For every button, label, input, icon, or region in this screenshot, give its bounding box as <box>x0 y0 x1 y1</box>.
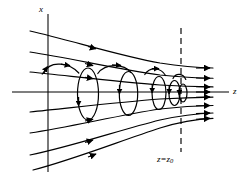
helix-loop-2 <box>119 72 137 116</box>
arrow-field-line-7-mid <box>88 154 96 157</box>
x-axis-label: x <box>39 5 43 14</box>
mirror-plane-label-subscript: 0 <box>170 157 173 164</box>
arrow-field-line-7-exit <box>196 113 210 114</box>
field-line-1 <box>30 31 213 68</box>
field-line-6 <box>30 113 213 155</box>
arrow-helix-back-arc-1 <box>61 64 70 65</box>
field-line-diagram-svg <box>0 0 250 178</box>
z-axis-label: z <box>233 87 237 96</box>
field-line-7 <box>33 118 213 170</box>
helix-loop-1 <box>78 68 99 120</box>
arrow-field-line-8-exit <box>196 118 210 119</box>
axes-group <box>12 14 229 172</box>
field-line-exit-arrows <box>196 68 210 119</box>
mirror-plane-label: z=z0 <box>157 155 173 165</box>
arrow-helix-back-arc-2 <box>112 65 121 66</box>
mirror-plane-label-z: z <box>157 154 161 164</box>
helix-loop-3 <box>152 77 166 110</box>
figure-container: x z z=z0 <box>0 0 250 178</box>
helix-back-arc-1 <box>44 64 79 73</box>
